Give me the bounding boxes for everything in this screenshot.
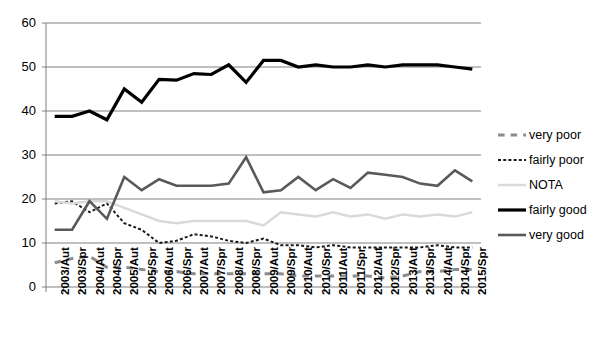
line-chart: 0102030405060 2003/Aut2003/Spr2004/Aut20… [0,0,608,362]
legend-item-fairly-poor[interactable]: fairly poor [497,147,605,172]
series-line-very-good [55,157,473,230]
x-axis-tick-label: 2005/Spr [147,247,159,295]
y-axis-tick-label: 0 [8,280,36,293]
x-axis-tick-label: 2003/Spr [77,247,89,295]
x-axis-tick-label: 2011/Aut [338,248,350,295]
x-axis-tick-label: 2013/Aut [408,247,420,295]
x-axis-tick-label: 2011/Spr [356,248,368,295]
x-axis-tick-label: 2009/Spr [286,247,298,295]
legend-swatch-icon [497,129,527,141]
x-axis-tick-label: 2013/Spr [425,247,437,295]
x-axis-tick-label: 2012/Aut [373,247,385,295]
x-axis-tick-label: 2005/Aut [129,247,141,295]
legend-item-very-poor[interactable]: very poor [497,122,605,147]
x-axis-tick-label: 2007/Aut [199,247,211,295]
y-axis-tick-label: 60 [8,16,36,29]
x-axis-tick-label: 2010/Aut [303,247,315,295]
legend-swatch-icon [497,204,527,216]
legend-swatch-icon [497,154,527,166]
x-axis-tick-label: 2014/Aut [443,247,455,295]
x-axis-tick-label: 2004/Spr [112,247,124,295]
x-axis-tick-label: 2012/Spr [390,247,402,295]
x-axis-tick-label: 2014/Spr [460,247,472,295]
x-axis-tick-label: 2008/Spr [251,247,263,295]
legend-label: very poor [527,128,581,142]
chart-legend: very poorfairly poorNOTAfairly goodvery … [497,122,605,247]
series-line-NOTA [55,201,473,225]
y-axis-tick-label: 30 [8,148,36,161]
x-axis-tick-label: 2015/Spr [477,247,489,295]
x-axis-tick-label: 2006/Aut [164,247,176,295]
y-axis-tick-label: 50 [8,60,36,73]
legend-item-very-good[interactable]: very good [497,222,605,247]
legend-label: NOTA [527,178,563,192]
legend-label: fairly poor [527,153,584,167]
x-axis-tick-label: 2010/Spr [321,247,333,295]
legend-label: fairly good [527,203,587,217]
legend-label: very good [527,228,584,242]
x-axis-tick-label: 2008/Aut [234,247,246,295]
x-axis-tick-label: 2006/Spr [182,247,194,295]
y-axis-tick-label: 40 [8,104,36,117]
legend-swatch-icon [497,179,527,191]
x-axis-tick-label: 2003/Aut [60,247,72,295]
legend-item-fairly-good[interactable]: fairly good [497,197,605,222]
legend-swatch-icon [497,229,527,241]
x-axis-tick-label: 2007/Spr [216,247,228,295]
x-axis-tick-label: 2009/Aut [269,247,281,295]
y-axis-tick-label: 20 [8,192,36,205]
y-axis-tick-label: 10 [8,236,36,249]
legend-item-NOTA[interactable]: NOTA [497,172,605,197]
x-axis-tick-label: 2004/Aut [95,247,107,295]
